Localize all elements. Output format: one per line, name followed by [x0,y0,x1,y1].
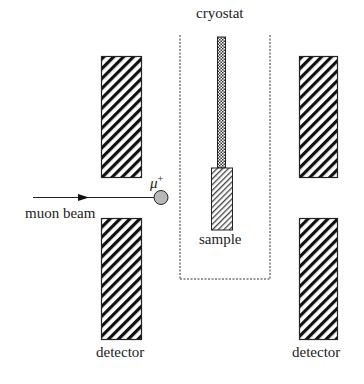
sample-label: sample [199,231,242,248]
muon-charge: + [158,173,164,184]
muon-beam-label: muon beam [25,205,95,222]
muon-beam-arrow [33,194,155,201]
sample-block [212,168,233,230]
detector-left-label: detector [96,344,144,361]
detector-right-label: detector [292,344,340,361]
detector-right-top [300,57,338,178]
muon-experiment-diagram [0,0,364,384]
detector-left-bottom [102,219,142,340]
muon-symbol: μ [150,175,158,191]
muon-symbol-label: μ+ [150,173,163,192]
detector-left-top [102,57,142,178]
muon-particle-icon [154,191,168,205]
sample-rod [218,37,226,168]
detector-right-bottom [300,219,338,340]
cryostat-label: cryostat [196,5,243,22]
